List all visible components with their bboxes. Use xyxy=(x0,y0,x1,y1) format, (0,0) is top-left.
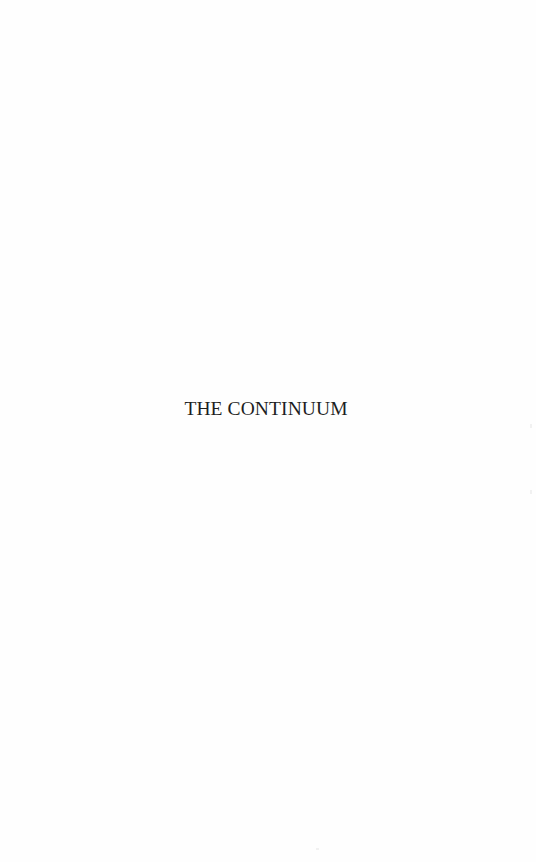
page-title: THE CONTINUUM xyxy=(0,397,532,421)
bleed-through-mark xyxy=(530,490,532,494)
paper-speck xyxy=(316,848,319,850)
bleed-through-mark xyxy=(530,424,532,428)
book-page: THE CONTINUUM xyxy=(0,0,536,862)
